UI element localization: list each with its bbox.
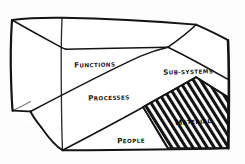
face-label-material: MATERIAL: [175, 110, 212, 128]
face-label-processes: PROCESSES: [88, 86, 130, 103]
face-label-people-text: EOPLE: [123, 138, 145, 145]
face-label-people: PEOPLE: [117, 130, 145, 147]
face-label-functions-text: UNCTIONS: [79, 61, 115, 68]
face-label-sub-systems: SUB-SYSTEMS: [163, 60, 213, 77]
face-label-processes-text: ROCESSES: [94, 94, 130, 101]
face-label-functions: FUNCTIONS: [74, 53, 116, 70]
face-label-sub-systems-text: UB-SYSTEMS: [169, 68, 214, 75]
face-label-material-text: ATERIAL: [183, 118, 212, 125]
diagram-canvas: FUNCTIONS SUB-SYSTEMS PROCESSES MATERIAL…: [0, 0, 245, 164]
